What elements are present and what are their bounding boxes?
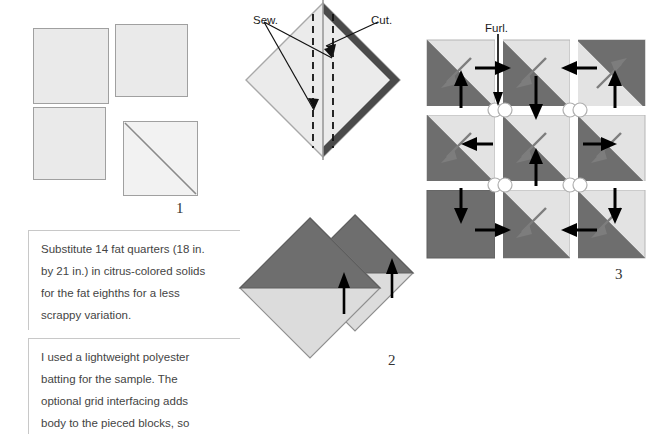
junction-circle-b bbox=[498, 103, 512, 117]
step-3-diamonds-svg bbox=[240, 214, 440, 389]
step-3-number: 2 bbox=[388, 352, 396, 369]
grid-cell-r2c1 bbox=[502, 190, 570, 258]
step-1-number: 1 bbox=[176, 200, 184, 217]
note-batting-line-2: batting for the sample. The bbox=[41, 368, 236, 390]
step-2-figure: Sew. Cut. bbox=[228, 0, 418, 215]
grid-cell-r2c2 bbox=[577, 190, 645, 258]
grid-cell-r1c0 bbox=[427, 115, 495, 183]
diagonal-marking-line bbox=[124, 122, 197, 195]
step-4-number: 3 bbox=[615, 266, 623, 283]
square-bottom-right-marked bbox=[123, 121, 198, 196]
square-top-right bbox=[115, 24, 188, 97]
note-batting-line-1: I used a lightweight polyester bbox=[41, 346, 236, 368]
note-batting: I used a lightweight polyester batting f… bbox=[28, 338, 240, 434]
note-fat-quarters: Substitute 14 fat quarters (18 in. by 21… bbox=[28, 230, 240, 330]
step-4-grid-svg bbox=[425, 18, 662, 288]
junction-circle-d bbox=[573, 103, 587, 117]
step-2-diamond-svg bbox=[228, 0, 418, 215]
note-fat-quarters-line-4: scrappy variation. bbox=[41, 304, 236, 326]
grid-cell-r1c2 bbox=[577, 115, 645, 183]
step-3-figure: 2 bbox=[240, 214, 440, 389]
note-fat-quarters-line-3: for the fat eighths for a less bbox=[41, 282, 236, 304]
step-4-figure: Furl. bbox=[425, 18, 662, 288]
square-bottom-left bbox=[33, 107, 106, 180]
junction-circle-f bbox=[498, 178, 512, 192]
note-batting-line-4: body to the pieced blocks, so bbox=[41, 412, 236, 434]
junction-circle-h bbox=[573, 178, 587, 192]
note-fat-quarters-line-2: by 21 in.) in citrus-colored solids bbox=[41, 260, 236, 282]
sew-label: Sew. bbox=[253, 14, 278, 26]
note-batting-line-3: optional grid interfacing adds bbox=[41, 390, 236, 412]
note-fat-quarters-line-1: Substitute 14 fat quarters (18 in. bbox=[41, 238, 236, 260]
grid-cell-r0c2 bbox=[577, 40, 645, 108]
step-1-figure: 1 bbox=[0, 0, 232, 232]
square-top-left bbox=[33, 28, 109, 104]
cut-label: Cut. bbox=[371, 14, 392, 26]
